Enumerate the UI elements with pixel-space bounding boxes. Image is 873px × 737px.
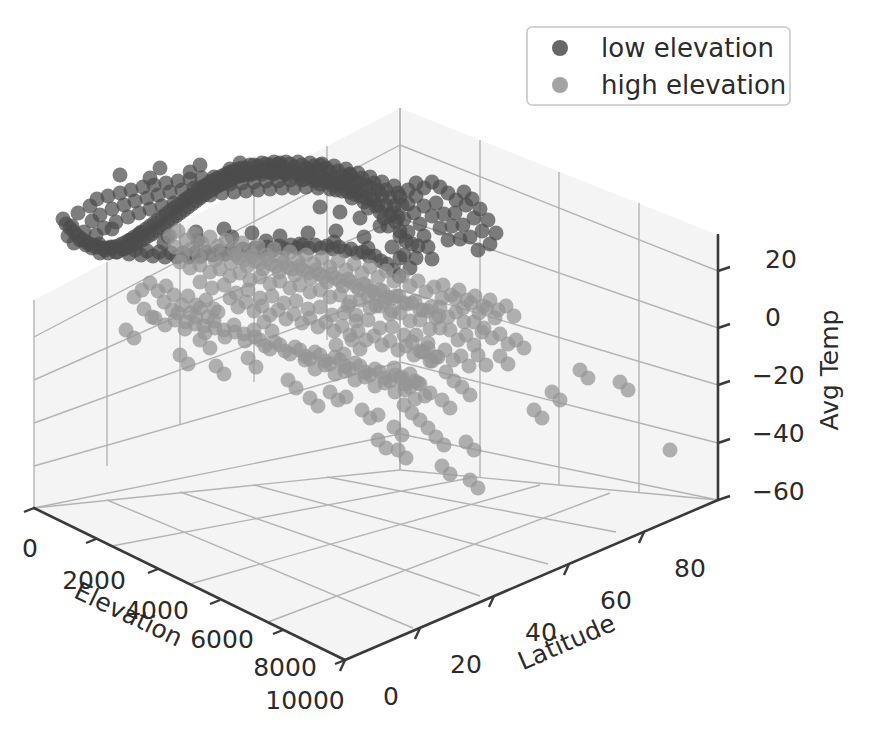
avgtemp-tick-label-m60: −60 — [752, 477, 805, 506]
data-point — [373, 219, 388, 234]
data-point — [479, 358, 494, 373]
data-point — [371, 408, 386, 423]
data-point — [145, 310, 160, 325]
data-point — [361, 241, 376, 256]
tick-elevation-4000 — [148, 569, 158, 573]
data-point — [203, 341, 218, 356]
data-point — [353, 211, 368, 226]
data-point — [337, 347, 352, 362]
data-point — [517, 341, 532, 356]
z-axis-title: Avg Temp — [815, 310, 844, 431]
data-point — [507, 309, 522, 324]
tick-elevation-8000 — [273, 630, 283, 634]
data-point — [265, 324, 280, 339]
data-point — [399, 451, 414, 466]
tick-avgtemp-0 — [718, 324, 730, 328]
data-point — [93, 246, 108, 261]
data-point — [425, 354, 440, 369]
elevation-tick-label-6000: 6000 — [190, 625, 254, 654]
legend-marker-low-elevation — [552, 40, 568, 56]
legend[interactable]: low elevation high elevation — [527, 27, 790, 105]
scatter3d-figure: 0 2000 4000 6000 8000 10000 0 20 40 60 8… — [0, 0, 873, 737]
data-point — [327, 235, 342, 250]
data-point — [489, 226, 504, 241]
data-point — [395, 428, 410, 443]
avgtemp-tick-label-20: 20 — [765, 245, 797, 274]
data-point — [311, 399, 326, 414]
data-point — [467, 443, 482, 458]
avgtemp-tick-label-0: 0 — [765, 303, 781, 332]
data-point — [553, 393, 568, 408]
avgtemp-tick-labels: 20 0 −20 −40 −60 — [752, 245, 805, 506]
avgtemp-tick-label-m20: −20 — [752, 361, 805, 390]
data-point — [217, 367, 232, 382]
data-point — [581, 371, 596, 386]
data-point — [113, 168, 128, 183]
data-point — [181, 357, 196, 372]
data-point — [105, 222, 120, 237]
tick-elevation-0 — [24, 508, 34, 512]
data-point — [443, 467, 458, 482]
data-point — [535, 411, 550, 426]
data-point — [313, 200, 328, 215]
latitude-tick-label-20: 20 — [450, 650, 482, 679]
data-point — [273, 229, 288, 244]
data-point — [349, 308, 364, 323]
data-point — [418, 389, 433, 404]
data-point — [501, 357, 516, 372]
data-point — [127, 331, 142, 346]
avgtemp-tick-label-m40: −40 — [752, 419, 805, 448]
elevation-tick-label-8000: 8000 — [253, 653, 317, 682]
data-point — [143, 171, 158, 186]
data-point — [471, 481, 486, 496]
data-point — [463, 388, 478, 403]
data-point — [249, 360, 264, 375]
data-point — [59, 217, 74, 232]
data-point — [393, 229, 408, 244]
data-point — [425, 252, 440, 267]
latitude-tick-label-80: 80 — [674, 554, 706, 583]
tick-avgtemp-m60 — [718, 496, 730, 500]
legend-marker-high-elevation — [552, 77, 568, 93]
data-point — [127, 290, 142, 305]
data-point — [353, 342, 368, 357]
elevation-tick-label-10000: 10000 — [265, 686, 345, 715]
data-point — [333, 205, 348, 220]
tick-avgtemp-20 — [718, 267, 730, 271]
data-point — [183, 165, 198, 180]
data-point — [339, 390, 354, 405]
data-point — [289, 381, 304, 396]
data-point — [393, 190, 408, 205]
latitude-tick-label-0: 0 — [383, 682, 399, 711]
tick-avgtemp-m20 — [718, 381, 730, 385]
data-point — [437, 438, 452, 453]
tick-elevation-6000 — [210, 600, 220, 604]
elevation-tick-label-0: 0 — [22, 534, 38, 563]
legend-label-low-elevation: low elevation — [601, 33, 774, 63]
data-point — [663, 443, 678, 458]
data-point — [411, 376, 426, 391]
legend-label-high-elevation: high elevation — [601, 70, 786, 100]
data-point — [443, 401, 458, 416]
data-point — [621, 383, 636, 398]
data-point — [385, 304, 400, 319]
tick-elevation-2000 — [86, 539, 96, 543]
tick-avgtemp-m40 — [718, 439, 730, 443]
data-point — [475, 325, 490, 340]
